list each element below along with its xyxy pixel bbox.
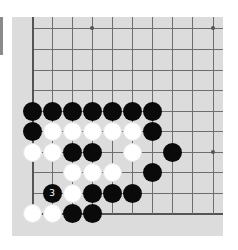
white-stone[interactable] [123, 143, 142, 162]
grid-line-vertical [192, 17, 193, 214]
black-stone[interactable] [23, 102, 42, 121]
move-number: 3 [49, 188, 55, 198]
white-stone[interactable] [43, 204, 62, 223]
side-marker-bar [0, 17, 3, 55]
white-stone[interactable] [123, 122, 142, 141]
black-stone[interactable] [83, 204, 102, 223]
white-stone[interactable] [63, 122, 82, 141]
white-stone[interactable] [103, 163, 122, 182]
white-stone[interactable] [83, 163, 102, 182]
black-stone[interactable] [43, 102, 62, 121]
white-stone[interactable] [103, 122, 122, 141]
grid-line-horizontal [32, 172, 223, 173]
black-stone[interactable] [63, 102, 82, 121]
star-point [211, 150, 215, 154]
black-stone[interactable] [163, 143, 182, 162]
star-point [90, 26, 94, 30]
black-stone[interactable] [83, 184, 102, 203]
black-stone[interactable] [83, 143, 102, 162]
black-stone[interactable]: 3 [43, 184, 62, 203]
black-stone[interactable] [123, 184, 142, 203]
black-stone[interactable] [143, 122, 162, 141]
black-stone[interactable] [123, 102, 142, 121]
grid-line-horizontal [32, 70, 223, 71]
black-stone[interactable] [83, 102, 102, 121]
black-stone[interactable] [63, 204, 82, 223]
grid-line-vertical [213, 17, 214, 214]
white-stone[interactable] [83, 122, 102, 141]
black-stone[interactable] [143, 102, 162, 121]
black-stone[interactable] [23, 122, 42, 141]
black-stone[interactable] [103, 184, 122, 203]
white-stone[interactable] [43, 143, 62, 162]
grid-line-horizontal [32, 28, 223, 29]
grid-line-horizontal [32, 90, 223, 91]
grid-line-vertical [172, 17, 173, 214]
black-stone[interactable] [63, 143, 82, 162]
black-stone[interactable] [103, 102, 122, 121]
white-stone[interactable] [23, 143, 42, 162]
go-board[interactable]: 3 [12, 17, 223, 236]
white-stone[interactable] [63, 184, 82, 203]
black-stone[interactable] [143, 163, 162, 182]
star-point [211, 26, 215, 30]
grid-line-horizontal [32, 49, 223, 50]
white-stone[interactable] [63, 163, 82, 182]
white-stone[interactable] [43, 122, 62, 141]
white-stone[interactable] [23, 204, 42, 223]
